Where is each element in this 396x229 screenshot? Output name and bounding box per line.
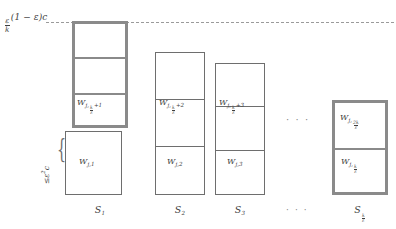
axis-ellipsis-bottom: · · · <box>286 205 308 215</box>
column-s2-cell-3 <box>156 146 204 194</box>
column-sk-axis-label: Skε <box>332 205 388 224</box>
column-s2-cell-2-label: Wj,kε+2 <box>159 99 184 116</box>
column-sk-cell-2-label: Wj,kε <box>341 158 358 175</box>
column-s3-box <box>215 63 265 195</box>
column-s3-cell-2-label: Wj,kε+3 <box>219 99 244 116</box>
column-s2-box <box>155 52 205 195</box>
columns-ellipsis-middle: · · · <box>286 114 310 125</box>
epsilon-squared-constant: c <box>42 166 51 170</box>
epsilon-squared-label: ≤ε2c <box>41 166 50 184</box>
column-s1-cell-1 <box>75 24 125 57</box>
threshold-fraction-numerator: ε <box>5 17 10 24</box>
epsilon-squared-epsilon: ε <box>42 174 51 178</box>
threshold-label: ε k (1 − ε)c <box>4 13 47 33</box>
column-s3-cell-3 <box>216 150 264 194</box>
threshold-fraction: ε k <box>5 17 11 33</box>
column-s3-cell-3-label: Wj,3 <box>227 158 243 167</box>
epsilon-squared-relation: ≤ <box>42 178 51 184</box>
threshold-label-rest: (1 − ε)c <box>11 12 48 22</box>
column-s1-bottom-cell-label: Wj,1 <box>79 158 95 167</box>
column-s1-axis-label: S1 <box>72 205 128 216</box>
column-s1-cell-3-label: Wj,kε+1 <box>77 99 102 116</box>
column-s1-cell-2 <box>75 57 125 93</box>
epsilon-squared-exponent: 2 <box>40 170 46 173</box>
epsilon-squared-brace: { <box>57 136 66 162</box>
column-s2-cell-3-label: Wj,2 <box>167 158 183 167</box>
column-s3-axis-label: S3 <box>215 205 265 216</box>
column-s2-cell-1 <box>156 53 204 99</box>
column-s2-axis-label: S2 <box>155 205 205 216</box>
column-sk-cell-1-label: Wj,2kε <box>340 114 360 131</box>
bin-packing-figure: ε k (1 − ε)c Wj,kε+1 Wj,1 { ≤ε2c S1 Wj,k… <box>0 0 396 229</box>
threshold-fraction-denominator: k <box>5 25 11 33</box>
